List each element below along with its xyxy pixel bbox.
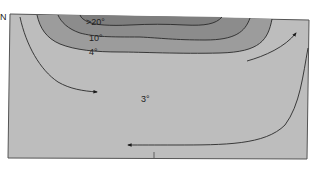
circulation-diagram: >20° 10° 4° N 3° <box>0 0 320 172</box>
isotherm-label-4: 4° <box>89 47 98 57</box>
isotherm-label-10: 10° <box>89 33 103 43</box>
isotherm-label-20: >20° <box>86 17 105 27</box>
deep-water-temp-label: 3° <box>141 94 150 104</box>
north-label: N <box>0 12 7 22</box>
